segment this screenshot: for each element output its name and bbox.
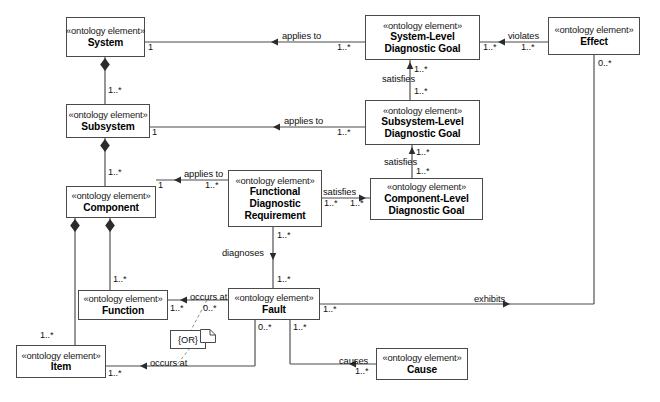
class-stereotype: «ontology element» (387, 181, 466, 192)
mult-fault-exhibits-source: 1..* (323, 304, 336, 314)
assoc-label-system-applies-to: applies to (282, 30, 321, 41)
mult-subsystem-composition: 1..* (108, 85, 121, 95)
class-stereotype: «ontology element» (68, 109, 147, 120)
class-box-subsystem-level-diagnostic-goal[interactable]: «ontology element» Subsystem-Level Diagn… (365, 100, 480, 145)
note-fold-corner (200, 329, 216, 343)
class-stereotype: «ontology element» (554, 24, 633, 35)
assoc-label-fdr-satisfies: satisfies (323, 186, 356, 197)
class-box-function[interactable]: «ontology element» Function (78, 290, 168, 320)
mult-fault-occurs-at-function: 0..* (203, 303, 216, 313)
uml-class-diagram: .ln { stroke: #4a4a4a; stroke-width: 1.1… (0, 0, 660, 402)
class-stereotype: «ontology element» (66, 25, 145, 36)
class-name: Fault (262, 304, 286, 316)
class-box-functional-diagnostic-requirement[interactable]: «ontology element» Functional Diagnostic… (228, 170, 322, 227)
mult-function-composition: 1..* (113, 274, 126, 284)
note-text: {OR} (178, 335, 198, 345)
mult-function-occurs-at: 1..* (170, 303, 183, 313)
assoc-label-component-applies-to: applies to (184, 168, 223, 179)
mult-subgoal-target: 1..* (337, 127, 350, 137)
class-box-component-level-diagnostic-goal[interactable]: «ontology element» Component-Level Diagn… (370, 178, 483, 220)
class-name: System (88, 37, 124, 49)
assoc-label-exhibits: exhibits (474, 293, 505, 304)
mult-component-source: 1 (158, 180, 163, 190)
class-name: Function (102, 305, 144, 317)
mult-fault-occurs-at-item: 0..* (258, 322, 271, 332)
mult-fdr-satisfies-source: 1..* (324, 198, 337, 208)
class-stereotype: «ontology element» (383, 20, 462, 31)
class-name-line-2: Diagnostic (249, 198, 300, 210)
mult-subgoal-satisfies-lower: 1..* (414, 86, 427, 96)
class-name-line-3: Requirement (244, 210, 305, 222)
class-name-line-1: System-Level (390, 31, 455, 43)
class-name-line-1: Functional (250, 186, 301, 198)
class-stereotype: «ontology element» (235, 175, 314, 186)
mult-sysgoal-satisfies-upper: 1..* (414, 64, 427, 74)
mult-component-composition: 1..* (108, 167, 121, 177)
mult-compgoal-satisfies-target: 1..* (350, 198, 363, 208)
class-stereotype: «ontology element» (83, 293, 162, 304)
class-name: Item (51, 361, 72, 373)
class-name-line-2: Diagnostic Goal (384, 128, 460, 140)
assoc-label-diagnoses: diagnoses (222, 247, 264, 258)
mult-sysgoal-target: 1..* (337, 42, 350, 52)
mult-compgoal-satisfies-lower: 1..* (416, 166, 429, 176)
class-box-component[interactable]: «ontology element» Component (66, 186, 156, 218)
mult-system-source: 1 (148, 42, 153, 52)
mult-effect-exhibits-target: 0..* (598, 58, 611, 68)
assoc-label-subsystem-applies-to: applies to (284, 115, 323, 126)
assoc-label-compgoal-satisfies: satisfies (384, 156, 417, 167)
mult-fdr-diagnoses-source: 1..* (277, 230, 290, 240)
assoc-label-violates: violates (508, 30, 539, 41)
mult-sysgoal-violates-source: 1..* (483, 42, 496, 52)
mult-effect-violates-target: 1..* (521, 42, 534, 52)
class-name: Cause (407, 364, 437, 376)
class-name-line-2: Diagnostic Goal (388, 205, 464, 217)
assoc-label-subgoal-satisfies: satisfies (382, 73, 415, 84)
class-box-fault[interactable]: «ontology element» Fault (228, 288, 320, 320)
class-box-system-level-diagnostic-goal[interactable]: «ontology element» System-Level Diagnost… (365, 15, 480, 60)
class-box-item[interactable]: «ontology element» Item (16, 345, 106, 378)
class-name-line-2: Diagnostic Goal (384, 43, 460, 55)
mult-fault-causes-source: 1..* (293, 322, 306, 332)
assoc-label-causes: causes (339, 355, 368, 366)
mult-subsystem-source: 1 (152, 127, 157, 137)
mult-subgoal-satisfies-upper: 1..* (416, 147, 429, 157)
class-name-line-1: Component-Level (384, 193, 469, 205)
mult-cause-target: 1..* (355, 366, 368, 376)
class-name: Component (83, 202, 139, 214)
class-stereotype: «ontology element» (383, 105, 462, 116)
mult-fault-diagnoses-target: 1..* (277, 274, 290, 284)
assoc-label-fault-occurs-at-function: occurs at (190, 291, 227, 302)
class-name: Subsystem (81, 121, 134, 133)
class-name: Effect (580, 36, 608, 48)
mult-item-composition: 1..* (40, 330, 53, 340)
class-box-effect[interactable]: «ontology element» Effect (548, 17, 640, 55)
class-box-cause[interactable]: «ontology element» Cause (376, 348, 468, 380)
mult-item-occurs-at: 1..* (108, 368, 121, 378)
class-box-system[interactable]: «ontology element» System (66, 17, 145, 57)
class-stereotype: «ontology element» (234, 292, 313, 303)
class-name-line-1: Subsystem-Level (381, 116, 463, 128)
class-stereotype: «ontology element» (382, 352, 461, 363)
class-box-subsystem[interactable]: «ontology element» Subsystem (66, 104, 150, 138)
class-stereotype: «ontology element» (21, 350, 100, 361)
assoc-label-fault-occurs-at-item: occurs at (150, 357, 187, 368)
mult-fdr-target: 1..* (205, 180, 218, 190)
class-stereotype: «ontology element» (71, 190, 150, 201)
